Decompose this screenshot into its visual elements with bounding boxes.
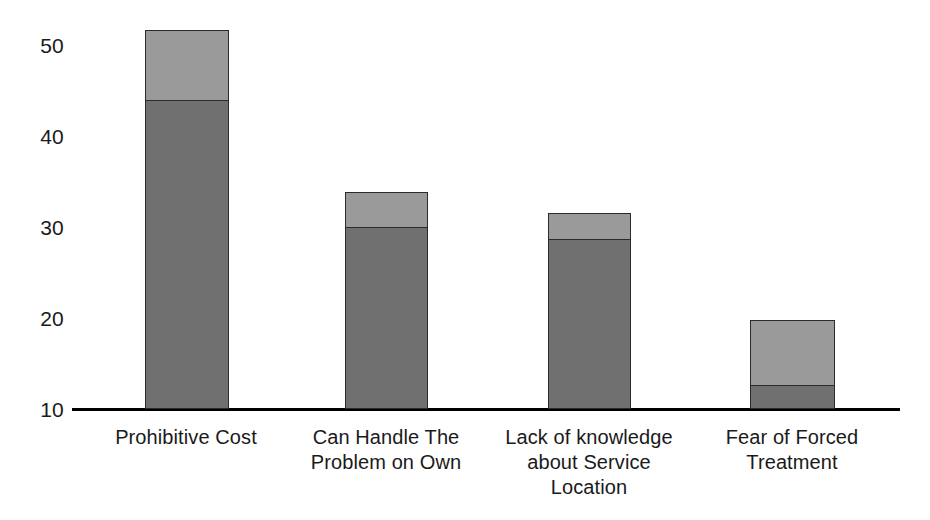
bar-fear-of-forced-treatment[interactable]: [750, 320, 835, 409]
x-label-can-handle-the-problem-on-own: Can Handle The Problem on Own: [311, 425, 461, 475]
bar-segment-upper: [145, 30, 229, 101]
x-label-lack-of-knowledge-about-service-location: Lack of knowledge about Service Location: [505, 425, 672, 500]
bar-prohibitive-cost[interactable]: [145, 30, 229, 409]
stacked-bar-chart: 50 40 30 20 10 Prohibitive Cost Can Hand…: [0, 0, 930, 520]
bar-segment-lower: [548, 240, 631, 409]
x-label-prohibitive-cost: Prohibitive Cost: [115, 425, 257, 450]
x-axis-labels: Prohibitive Cost Can Handle The Problem …: [0, 420, 930, 520]
x-label-fear-of-forced-treatment: Fear of Forced Treatment: [726, 425, 859, 475]
bar-segment-upper: [548, 213, 631, 239]
bar-segment-upper: [345, 192, 428, 228]
bar-can-handle-the-problem-on-own[interactable]: [345, 192, 428, 409]
bar-segment-upper: [750, 320, 835, 386]
bar-segment-lower: [145, 101, 229, 409]
bar-segment-lower: [750, 386, 835, 409]
bar-lack-of-knowledge-about-service-location[interactable]: [548, 213, 631, 409]
bar-segment-lower: [345, 228, 428, 409]
plot-area: [0, 0, 930, 412]
